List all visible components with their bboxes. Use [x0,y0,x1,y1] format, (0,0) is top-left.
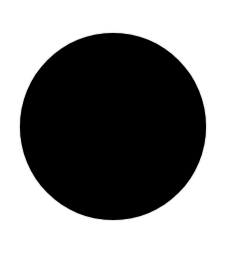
black-circle-shape [20,33,206,220]
canvas [0,0,225,264]
